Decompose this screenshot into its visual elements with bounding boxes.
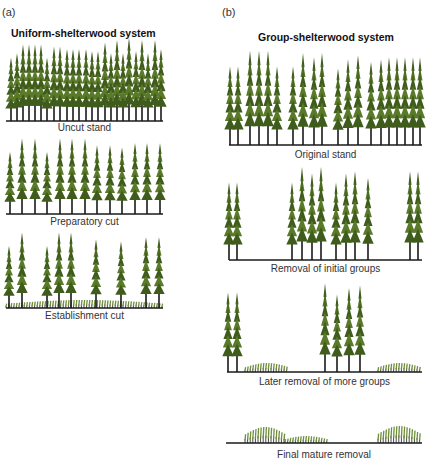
stand-a-0 — [5, 38, 166, 121]
stand-b-3 — [226, 426, 422, 443]
stand-b-0 — [224, 51, 425, 145]
stand-diagram-illustration — [0, 0, 429, 465]
stand-b-2 — [222, 283, 422, 372]
stand-b-1 — [223, 167, 423, 260]
stand-a-1 — [4, 139, 165, 214]
stand-a-2 — [3, 233, 164, 308]
